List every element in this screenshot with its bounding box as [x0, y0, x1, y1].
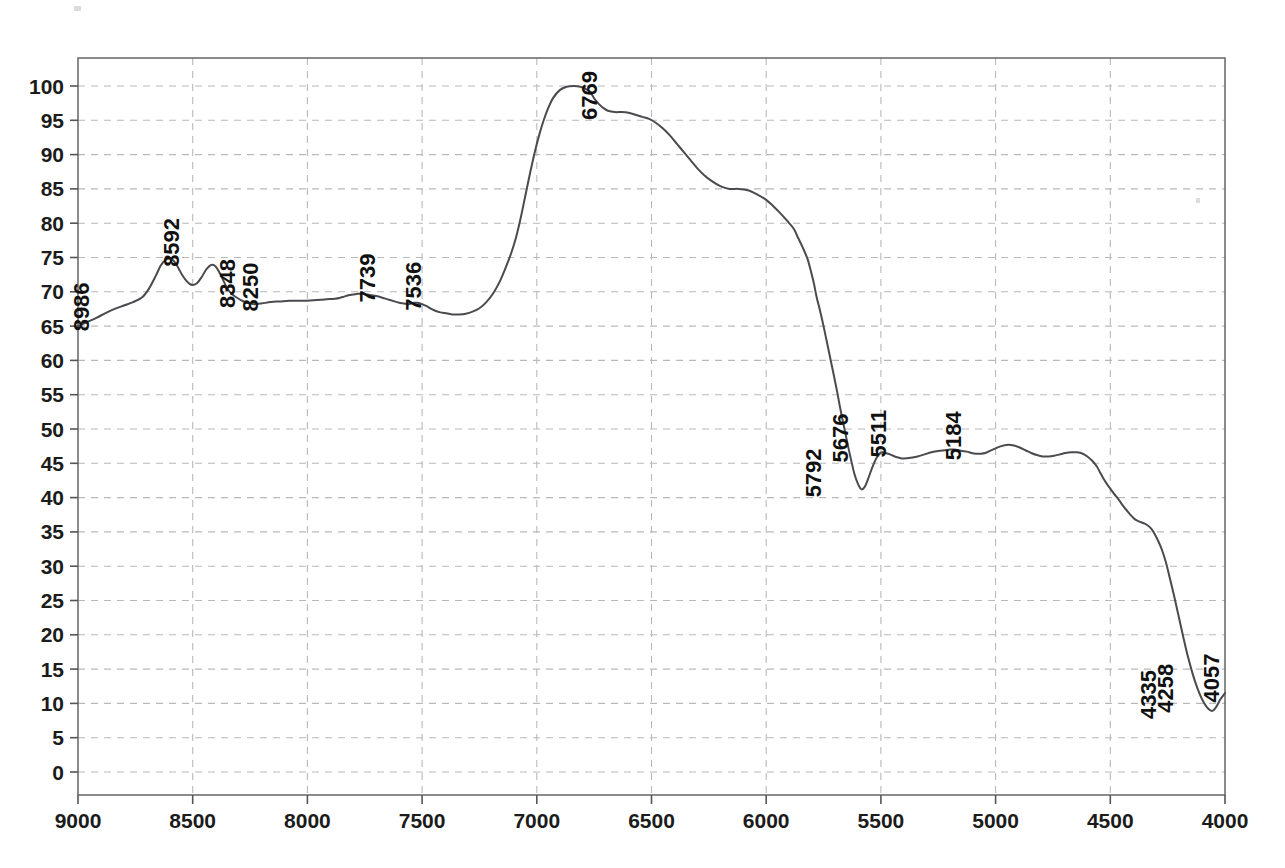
- gridlines: [78, 58, 1225, 795]
- y-tick-label: 95: [41, 109, 65, 132]
- spectrum-chart: 0510152025303540455055606570758085909510…: [0, 0, 1285, 868]
- y-tick-label: 85: [41, 177, 65, 200]
- peak-labels: 8986859283488250773975366769579256765511…: [69, 71, 1225, 719]
- peak-label: 5792: [801, 448, 826, 497]
- x-tick-label: 9000: [55, 809, 102, 832]
- x-axis-tick-labels: 9000850080007500700065006000550050004500…: [55, 809, 1249, 832]
- x-tick-label: 6500: [628, 809, 675, 832]
- y-tick-label: 10: [41, 692, 64, 715]
- x-tick-label: 4500: [1087, 809, 1134, 832]
- peak-label: 7739: [355, 254, 380, 303]
- axis-ticks: [70, 86, 1225, 804]
- peak-label: 5676: [828, 413, 853, 462]
- y-axis-tick-labels: 0510152025303540455055606570758085909510…: [29, 75, 64, 784]
- peak-label: 8250: [238, 263, 263, 312]
- peak-label: 8986: [69, 282, 94, 331]
- peak-label: 8348: [215, 259, 240, 308]
- y-tick-label: 90: [41, 143, 64, 166]
- x-tick-label: 7000: [513, 809, 560, 832]
- y-tick-label: 70: [41, 280, 64, 303]
- y-tick-label: 55: [41, 383, 65, 406]
- x-tick-label: 5000: [972, 809, 1019, 832]
- peak-label: 7536: [401, 262, 426, 311]
- peak-label: 4258: [1153, 664, 1178, 713]
- peak-label: 4057: [1199, 654, 1224, 703]
- y-tick-label: 25: [41, 589, 65, 612]
- x-tick-label: 8000: [284, 809, 331, 832]
- y-tick-label: 50: [41, 418, 64, 441]
- y-tick-label: 30: [41, 555, 64, 578]
- scan-artifacts: [74, 6, 1200, 203]
- peak-label: 5511: [866, 410, 891, 458]
- x-tick-label: 8500: [169, 809, 216, 832]
- x-tick-label: 7500: [399, 809, 446, 832]
- peak-label: 8592: [159, 218, 184, 267]
- y-tick-label: 0: [52, 761, 64, 784]
- x-tick-label: 5500: [858, 809, 905, 832]
- y-tick-label: 35: [41, 520, 65, 543]
- y-tick-label: 40: [41, 486, 64, 509]
- y-tick-label: 65: [41, 315, 65, 338]
- y-tick-label: 60: [41, 349, 64, 372]
- y-tick-label: 100: [29, 75, 64, 98]
- peak-label: 5184: [941, 411, 966, 461]
- y-tick-label: 75: [41, 246, 65, 269]
- spectrum-plot-svg: 0510152025303540455055606570758085909510…: [0, 0, 1285, 868]
- peak-label: 6769: [577, 71, 602, 120]
- y-tick-label: 5: [52, 726, 64, 749]
- y-tick-label: 20: [41, 623, 64, 646]
- x-tick-label: 4000: [1202, 809, 1249, 832]
- y-tick-label: 45: [41, 452, 65, 475]
- x-tick-label: 6000: [743, 809, 790, 832]
- y-tick-label: 15: [41, 658, 65, 681]
- y-tick-label: 80: [41, 212, 64, 235]
